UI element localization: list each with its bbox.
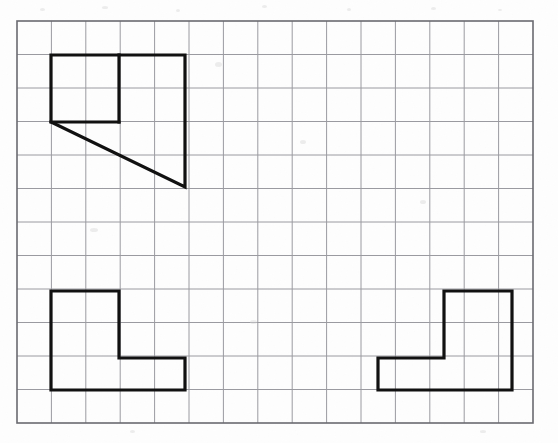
grid-paper-svg bbox=[0, 0, 558, 443]
worksheet-canvas bbox=[0, 0, 558, 443]
